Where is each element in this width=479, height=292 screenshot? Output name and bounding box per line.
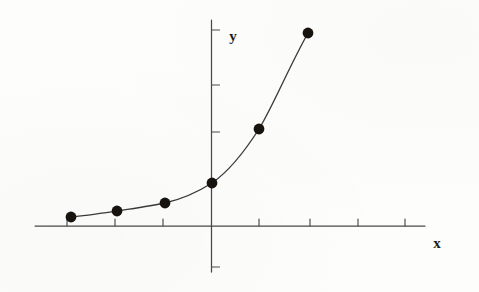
y-axis-ticks [212,30,220,267]
data-point [254,124,265,135]
data-curve [71,33,308,217]
plot-svg: x y [0,0,479,292]
data-point [112,206,123,217]
x-axis-label: x [433,235,441,251]
figure-canvas: x y [0,0,479,292]
data-points [66,28,314,223]
y-axis-label: y [229,28,237,44]
data-point [160,198,171,209]
data-point [66,212,77,223]
data-point [303,28,314,39]
data-point [207,178,218,189]
x-axis-ticks [67,219,405,226]
